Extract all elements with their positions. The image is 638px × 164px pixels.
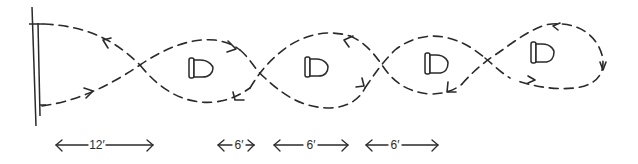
cone-icon <box>189 58 213 78</box>
cone-1 <box>189 58 213 78</box>
drill-diagram: 12′ 6′ 6′ 6′ <box>0 0 638 164</box>
direction-arrows <box>84 23 606 100</box>
dimension-label: 6′ <box>307 138 317 152</box>
dimension-6ft-1: 6′ <box>218 138 254 152</box>
dimension-6ft-3: 6′ <box>366 138 438 152</box>
cone-icon <box>425 53 448 74</box>
dimension-label: 6′ <box>391 138 401 152</box>
cone-icon <box>305 57 328 77</box>
cone-icon <box>531 42 554 63</box>
cone-2 <box>305 57 328 77</box>
dimension-6ft-2: 6′ <box>274 138 348 152</box>
cone-3 <box>425 53 448 74</box>
dimension-label: 12′ <box>89 138 105 152</box>
dimension-label: 6′ <box>235 138 245 152</box>
dimension-12ft: 12′ <box>56 138 153 152</box>
start-line <box>29 7 46 126</box>
cone-4 <box>531 42 554 63</box>
